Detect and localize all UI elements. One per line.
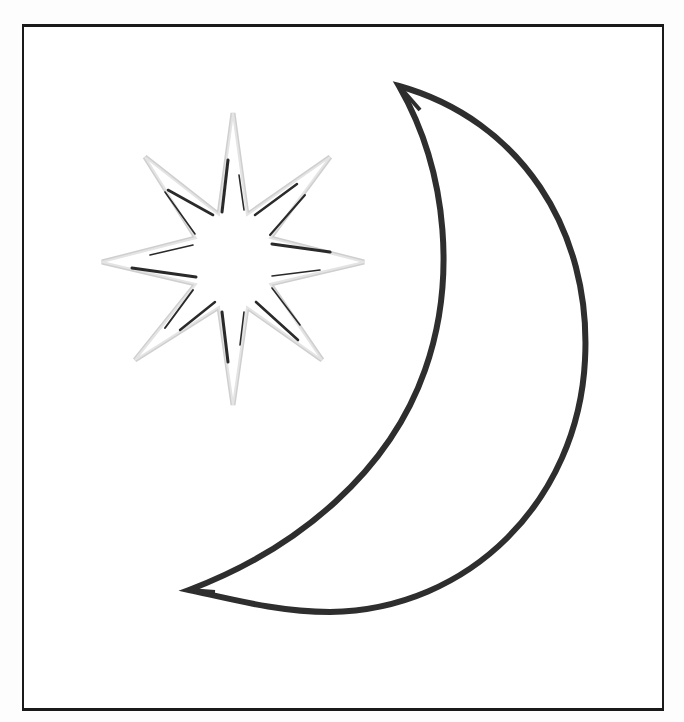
crescent-moon-icon [189,86,585,612]
star-icon [102,113,364,405]
page [0,0,684,722]
star-and-moon-illustration [0,0,684,722]
